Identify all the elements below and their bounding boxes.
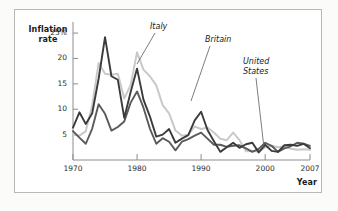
figure-container: Inflationrate Year 25%201510519701980199…	[0, 0, 338, 211]
chart-plot-svg	[0, 0, 338, 211]
series-lines	[73, 37, 310, 152]
series-line-britain	[73, 37, 310, 152]
leader-line-united-states	[256, 78, 264, 148]
axis-lines	[73, 22, 310, 160]
leader-line-italy	[137, 33, 155, 64]
leader-line-britain	[191, 46, 210, 101]
leader-lines	[137, 33, 264, 148]
tick-marks	[73, 33, 310, 160]
